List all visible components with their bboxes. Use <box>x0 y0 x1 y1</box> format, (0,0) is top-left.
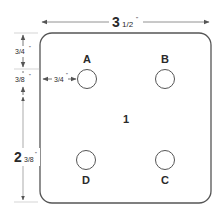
hole-diameter-unit: " <box>29 73 31 79</box>
vertical-dimensions: 3/4 " 3/8 " 2 3/8 " <box>12 33 40 202</box>
plate-number: 1 <box>123 113 129 125</box>
width-fraction: 1/2 <box>122 20 134 29</box>
hole-c-label: C <box>161 174 169 186</box>
hole-diameter-label: 3/8 <box>15 76 25 83</box>
plate-dimension-diagram: 3 1/2 " 3/4 " 3/8 " 2 3/8 " 3/4 " <box>0 0 221 216</box>
width-unit: " <box>136 16 138 22</box>
hole-b: B <box>156 53 175 89</box>
hole-a: A <box>78 53 97 89</box>
hole-spacing-whole: 2 <box>14 149 22 165</box>
side-offset-label: 3/4 <box>54 76 64 83</box>
hole-d: D <box>77 151 96 187</box>
side-offset-unit: " <box>66 72 68 78</box>
hole-c: C <box>156 151 175 187</box>
hole-b-label: B <box>161 53 169 65</box>
width-dimension: 3 1/2 " <box>42 12 209 30</box>
side-offset-dimension: 3/4 " <box>43 72 76 83</box>
hole-spacing-unit: " <box>35 151 37 157</box>
hole-d-label: D <box>82 174 90 186</box>
hole-spacing-fraction: 3/8 <box>24 156 34 163</box>
top-offset-unit: " <box>29 45 31 51</box>
width-whole: 3 <box>112 14 120 30</box>
hole-a-label: A <box>83 53 91 65</box>
top-offset-label: 3/4 <box>15 48 25 55</box>
